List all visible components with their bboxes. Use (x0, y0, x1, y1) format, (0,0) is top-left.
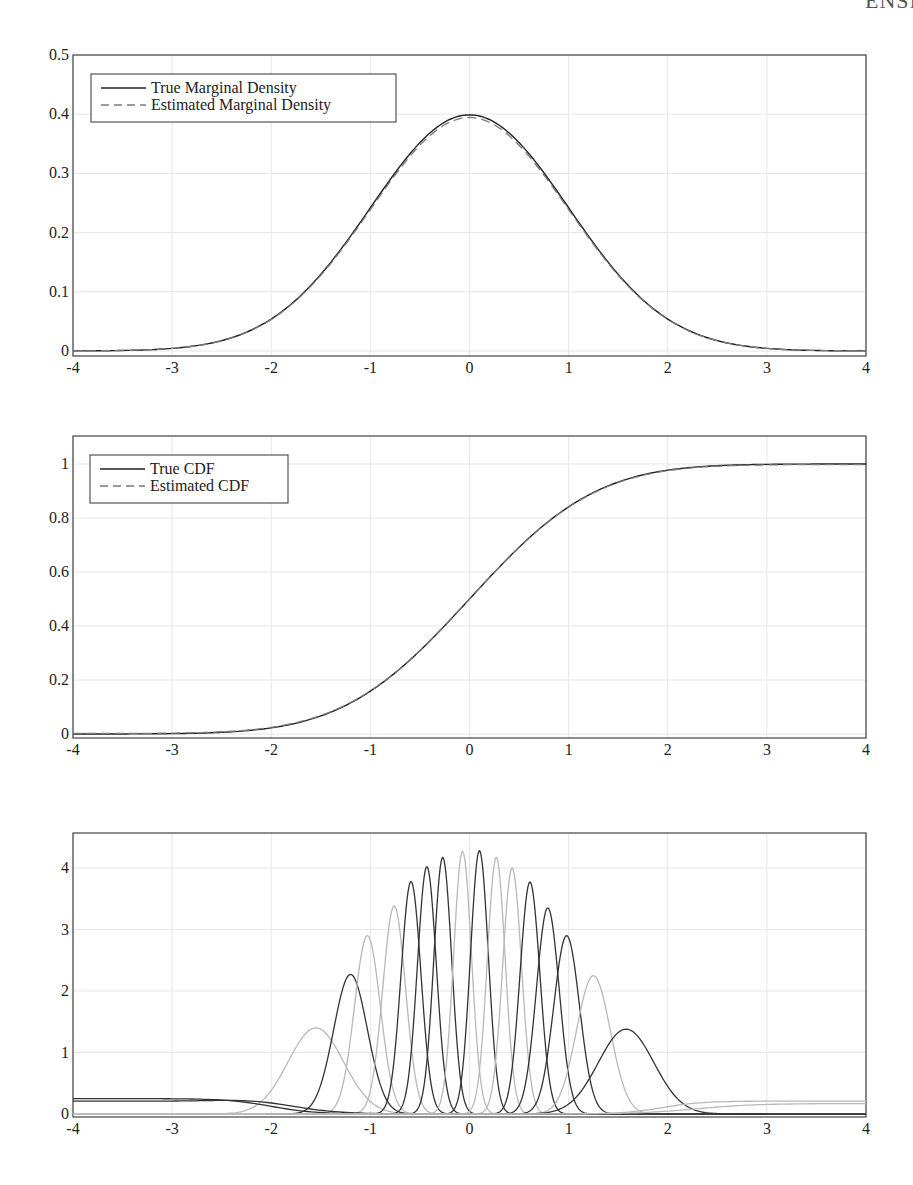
y-tick-label: 0.1 (49, 283, 69, 300)
x-tick-label: -4 (66, 1120, 79, 1137)
x-tick-label: 2 (664, 359, 672, 376)
legend-label-solid: True CDF (150, 460, 215, 477)
x-tick-label: -4 (66, 741, 79, 758)
y-tick-label: 0 (61, 342, 69, 359)
x-tick-label: 0 (466, 359, 474, 376)
figure-canvas: -4-3-2-10123400.10.20.30.40.5True Margin… (0, 0, 913, 1185)
y-tick-label: 0.8 (49, 509, 69, 526)
x-tick-label: 2 (664, 1120, 672, 1137)
basis-functions-plot: -4-3-2-10123401234 (61, 833, 870, 1137)
x-tick-label: 2 (664, 741, 672, 758)
y-tick-label: 0.4 (49, 105, 69, 122)
y-tick-label: 1 (61, 455, 69, 472)
y-tick-label: 0.3 (49, 164, 69, 181)
basis-bump-line (480, 882, 579, 1114)
x-tick-label: 3 (763, 1120, 771, 1137)
x-tick-label: -3 (165, 1120, 178, 1137)
y-tick-label: 2 (61, 982, 69, 999)
basis-bump-line (303, 936, 432, 1114)
x-tick-label: 0 (466, 741, 474, 758)
y-tick-label: 0.4 (49, 617, 69, 634)
x-tick-label: 3 (763, 741, 771, 758)
x-tick-label: 1 (565, 359, 573, 376)
x-tick-label: 3 (763, 359, 771, 376)
y-tick-label: 0 (61, 725, 69, 742)
y-tick-label: 0.6 (49, 563, 69, 580)
y-tick-label: 0 (61, 1105, 69, 1122)
x-tick-label: -3 (165, 359, 178, 376)
x-tick-label: -1 (364, 1120, 377, 1137)
x-tick-label: -1 (364, 359, 377, 376)
density-plot: -4-3-2-10123400.10.20.30.40.5True Margin… (49, 46, 870, 376)
x-tick-label: -1 (364, 741, 377, 758)
cdf-plot: -4-3-2-10123400.20.40.60.81True CDFEstim… (49, 436, 870, 758)
legend-label-dashed: Estimated CDF (150, 477, 249, 494)
y-tick-label: 1 (61, 1044, 69, 1061)
x-tick-label: -2 (265, 741, 278, 758)
x-tick-label: 4 (862, 359, 870, 376)
basis-bump-line (266, 974, 435, 1114)
x-tick-label: 4 (862, 1120, 870, 1137)
y-tick-label: 3 (61, 921, 69, 938)
x-tick-label: -2 (265, 359, 278, 376)
x-tick-label: -2 (265, 1120, 278, 1137)
legend-label-solid: True Marginal Density (151, 79, 297, 97)
y-tick-label: 0.2 (49, 671, 69, 688)
y-tick-label: 4 (61, 859, 69, 876)
y-tick-label: 0.2 (49, 224, 69, 241)
y-tick-label: 0.5 (49, 46, 69, 63)
x-tick-label: 1 (565, 1120, 573, 1137)
legend-label-dashed: Estimated Marginal Density (151, 96, 331, 114)
x-tick-label: -3 (165, 741, 178, 758)
x-tick-label: 1 (565, 741, 573, 758)
x-tick-label: 4 (862, 741, 870, 758)
x-tick-label: -4 (66, 359, 79, 376)
x-tick-label: 0 (466, 1120, 474, 1137)
